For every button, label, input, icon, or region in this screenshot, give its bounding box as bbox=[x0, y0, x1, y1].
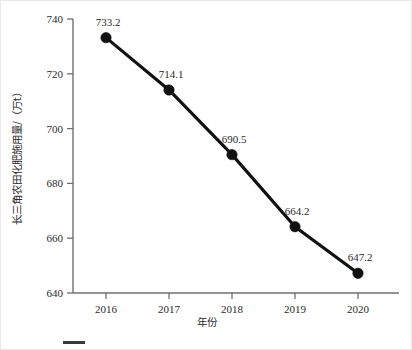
point-value-labels: 733.2714.1690.5664.2647.2 bbox=[96, 16, 373, 264]
data-point-marker-2017 bbox=[164, 85, 174, 95]
data-point-marker-2019 bbox=[290, 221, 300, 231]
series-markers bbox=[101, 32, 363, 278]
y-tick-label: 660 bbox=[47, 232, 64, 244]
figure-caption-strip bbox=[1, 335, 412, 349]
y-axis-ticks: 640660680700720740 bbox=[47, 13, 74, 299]
series-group bbox=[101, 32, 363, 278]
x-axis-title: 年份 bbox=[197, 316, 218, 328]
y-tick-label: 700 bbox=[47, 123, 64, 135]
y-tick-label: 640 bbox=[47, 287, 64, 299]
x-tick-label: 2020 bbox=[347, 303, 370, 315]
x-tick-label: 2019 bbox=[284, 303, 307, 315]
data-label-2020: 647.2 bbox=[348, 251, 373, 263]
chart-canvas: 640660680700720740 20162017201820192020 … bbox=[1, 1, 412, 350]
data-point-marker-2016 bbox=[101, 32, 111, 42]
data-label-2017: 714.1 bbox=[159, 68, 184, 80]
data-label-2016: 733.2 bbox=[96, 16, 121, 28]
data-label-2018: 690.5 bbox=[222, 133, 247, 145]
caption-rule bbox=[63, 341, 85, 344]
y-axis-title: 长三角农田化肥施用量/（万t） bbox=[11, 87, 23, 225]
y-tick-label: 740 bbox=[47, 13, 64, 25]
x-tick-label: 2017 bbox=[158, 303, 181, 315]
data-point-marker-2018 bbox=[227, 149, 237, 159]
data-point-marker-2020 bbox=[353, 268, 363, 278]
y-tick-label: 720 bbox=[47, 68, 64, 80]
y-tick-label: 680 bbox=[47, 177, 64, 189]
data-label-2019: 664.2 bbox=[285, 205, 310, 217]
x-tick-label: 2016 bbox=[95, 303, 118, 315]
line-chart-figure: 640660680700720740 20162017201820192020 … bbox=[1, 1, 412, 350]
x-axis-ticks: 20162017201820192020 bbox=[95, 293, 370, 315]
figure-page: 640660680700720740 20162017201820192020 … bbox=[0, 0, 412, 350]
x-tick-label: 2018 bbox=[221, 303, 244, 315]
